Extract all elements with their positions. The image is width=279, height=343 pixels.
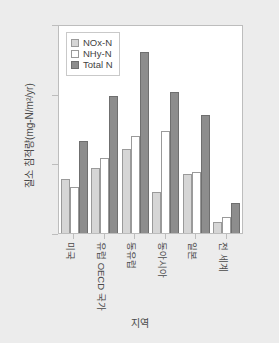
- bar-nhy-n: [70, 187, 79, 233]
- x-axis-title: 지역: [0, 315, 279, 330]
- bar-group: [181, 26, 212, 233]
- bar-nox-n: [213, 222, 222, 233]
- y-tick-mark-0: [52, 234, 58, 235]
- x-tick-mark: [104, 234, 105, 239]
- x-tick-mark: [165, 234, 166, 239]
- bar-total-n: [109, 96, 118, 233]
- bar-group: [90, 26, 121, 233]
- bar-nhy-n: [192, 172, 201, 233]
- x-tick-mark: [134, 234, 135, 239]
- plot-area: NOx-N NHy-N Total N: [58, 25, 243, 234]
- x-tick-mark: [73, 234, 74, 239]
- bar-group: [151, 26, 182, 233]
- bar-chart-figure: 질소 침적량(mg-N/m²/yr) 1500 1000 500 0 NOx-N…: [0, 0, 279, 343]
- y-axis-title: 질소 침적량(mg-N/m²/yr): [21, 36, 36, 236]
- bar-total-n: [170, 92, 179, 233]
- bar-nox-n: [183, 174, 192, 233]
- bar-total-n: [79, 141, 88, 233]
- bar-total-n: [201, 115, 210, 233]
- bar-total-n: [231, 203, 240, 233]
- bar-nhy-n: [100, 158, 109, 233]
- bar-nox-n: [61, 179, 70, 233]
- bar-nox-n: [152, 192, 161, 233]
- x-tick-mark: [226, 234, 227, 239]
- x-tick-mark: [195, 234, 196, 239]
- bar-nox-n: [122, 149, 131, 233]
- bar-nhy-n: [131, 136, 140, 233]
- bar-group: [120, 26, 151, 233]
- bar-nhy-n: [161, 131, 170, 233]
- bar-group: [59, 26, 90, 233]
- bar-nox-n: [91, 168, 100, 233]
- bar-total-n: [140, 52, 149, 233]
- bar-nhy-n: [222, 217, 231, 233]
- bar-group: [212, 26, 243, 233]
